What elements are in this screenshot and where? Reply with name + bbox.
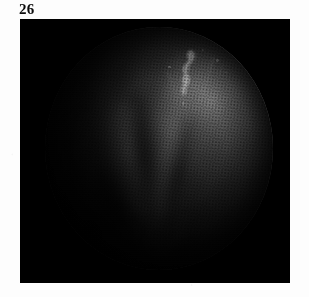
endoscope-field-of-view	[45, 27, 273, 270]
circular-vignette	[45, 27, 273, 270]
figure-number-label: 26	[19, 1, 34, 18]
figure-photo-frame	[20, 19, 290, 283]
scanned-page: 26	[0, 0, 309, 297]
